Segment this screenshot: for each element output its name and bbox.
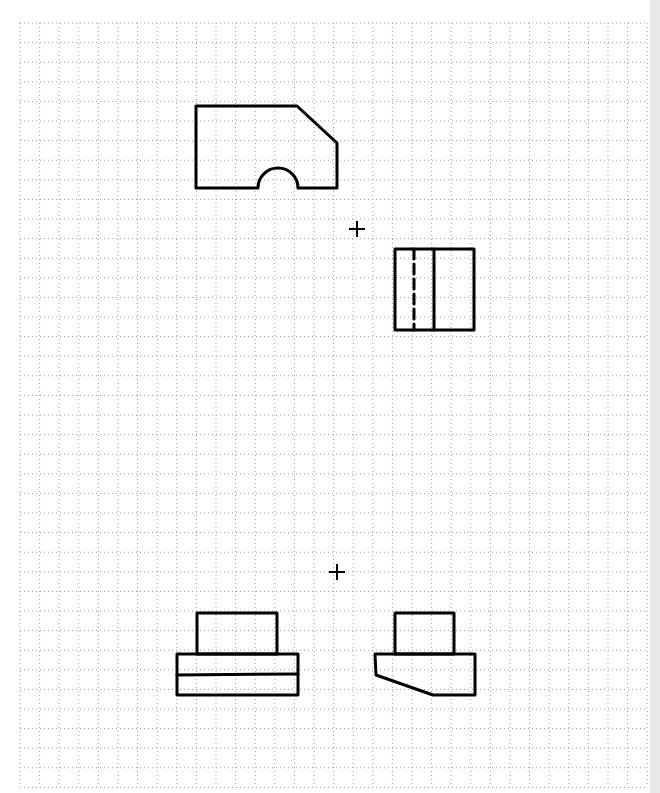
- drawing-canvas: [0, 0, 660, 793]
- registration-mark-upper-icon: [349, 221, 365, 237]
- dotted-grid: [20, 23, 647, 787]
- registration-mark-lower-icon: [329, 564, 345, 580]
- front-view-stepped: [177, 613, 298, 695]
- registration-marks: [329, 221, 365, 580]
- side-view-sloped: [375, 613, 475, 695]
- front-view-arch: [196, 106, 337, 188]
- side-view-rect: [395, 249, 474, 330]
